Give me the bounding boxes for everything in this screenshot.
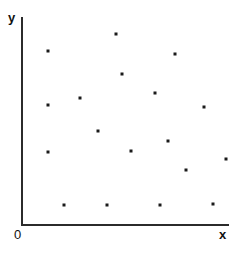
data-point [47, 151, 50, 154]
data-point [212, 203, 215, 206]
origin-label: 0 [14, 228, 21, 241]
x-axis-label: x [219, 228, 226, 241]
data-point [159, 204, 162, 207]
data-point [47, 104, 50, 107]
data-points-group [47, 33, 228, 207]
data-point [130, 150, 133, 153]
data-point [174, 53, 177, 56]
axes-group [22, 18, 228, 225]
y-axis-label: y [8, 11, 15, 24]
data-point [79, 97, 82, 100]
data-point [121, 73, 124, 76]
scatter-plot-canvas [0, 0, 239, 253]
data-point [225, 158, 228, 161]
data-point [203, 106, 206, 109]
data-point [115, 33, 118, 36]
data-point [106, 204, 109, 207]
data-point [154, 92, 157, 95]
data-point [47, 50, 50, 53]
data-point [167, 140, 170, 143]
scatter-plot-figure: y x 0 [0, 0, 239, 253]
data-point [63, 204, 66, 207]
data-point [97, 130, 100, 133]
data-point [185, 169, 188, 172]
